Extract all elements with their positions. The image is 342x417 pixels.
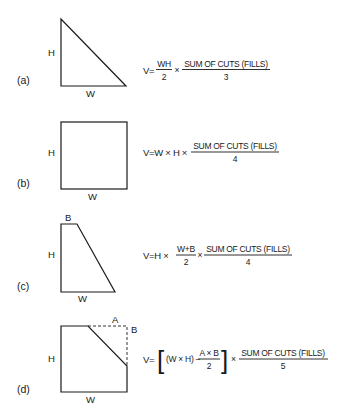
formula-lhs: V= xyxy=(143,65,155,76)
main-fraction-denominator: 3 xyxy=(224,72,229,82)
formula-a: V= WH 2 × SUM OF CUTS (FILLS) 3 xyxy=(143,59,270,82)
part-label-d: (d) xyxy=(17,383,30,395)
main-fraction-numerator: SUM OF CUTS (FILLS) xyxy=(241,348,325,358)
height-label: H xyxy=(48,47,55,58)
height-label: H xyxy=(48,353,55,364)
width-label: W xyxy=(88,191,97,202)
main-fraction-numerator: SUM OF CUTS (FILLS) xyxy=(184,59,268,69)
height-label: H xyxy=(48,249,55,260)
main-fraction-denominator: 4 xyxy=(233,154,238,164)
part-label-b: (b) xyxy=(17,177,30,189)
right-bracket: ] xyxy=(221,345,228,375)
main-fraction-denominator: 5 xyxy=(281,361,286,371)
formula-inner: (W × H) − xyxy=(166,354,200,364)
main-fraction-numerator: SUM OF CUTS (FILLS) xyxy=(193,141,277,151)
formula-b: V=W × H × SUM OF CUTS (FILLS) 4 xyxy=(143,141,279,164)
part-label-a: (a) xyxy=(17,74,30,86)
main-fraction-denominator: 4 xyxy=(246,257,251,267)
fraction-numerator: A × B xyxy=(199,348,219,358)
figure-d: (d) A B H W V= [ (W × H) − A × B 2 ] × S… xyxy=(17,314,328,405)
width-label: W xyxy=(86,394,95,405)
times-sign: × xyxy=(231,354,236,364)
cut-horizontal-label: A xyxy=(112,314,119,325)
formula-c: V=H × W+B 2 × SUM OF CUTS (FILLS) 4 xyxy=(143,244,292,267)
volume-formulas-diagram: (a) H W V= WH 2 × SUM OF CUTS (FILLS) 3 … xyxy=(0,0,342,417)
formula-prefix: V=W × H × xyxy=(143,147,187,158)
part-label-c: (c) xyxy=(17,280,29,292)
right-triangle-shape xyxy=(61,19,126,86)
width-label: W xyxy=(78,293,87,304)
fraction-denominator: 2 xyxy=(162,72,167,82)
formula-d: V= [ (W × H) − A × B 2 ] × SUM OF CUTS (… xyxy=(143,345,328,375)
fraction-denominator: 2 xyxy=(207,361,212,371)
fraction-numerator: W+B xyxy=(177,244,195,254)
fraction-numerator: WH xyxy=(157,59,171,69)
trapezoid-shape xyxy=(61,224,115,292)
cut-vertical-label: B xyxy=(131,324,137,335)
figure-c: (c) B H W V=H × W+B 2 × SUM OF CUTS (FIL… xyxy=(17,212,292,304)
left-bracket: [ xyxy=(157,345,165,375)
times-sign: × xyxy=(198,250,203,260)
times-sign: × xyxy=(175,65,180,75)
cut-rectangle-shape xyxy=(61,326,127,392)
width-label: W xyxy=(86,88,95,99)
figure-b: (b) H W V=W × H × SUM OF CUTS (FILLS) 4 xyxy=(17,122,279,202)
formula-prefix: V=H × xyxy=(143,250,168,261)
height-label: H xyxy=(48,147,55,158)
formula-lhs: V= xyxy=(143,354,155,365)
main-fraction-numerator: SUM OF CUTS (FILLS) xyxy=(206,244,290,254)
figure-a: (a) H W V= WH 2 × SUM OF CUTS (FILLS) 3 xyxy=(17,19,270,99)
top-label: B xyxy=(65,212,71,223)
fraction-denominator: 2 xyxy=(184,257,189,267)
rectangle-shape xyxy=(61,122,127,189)
